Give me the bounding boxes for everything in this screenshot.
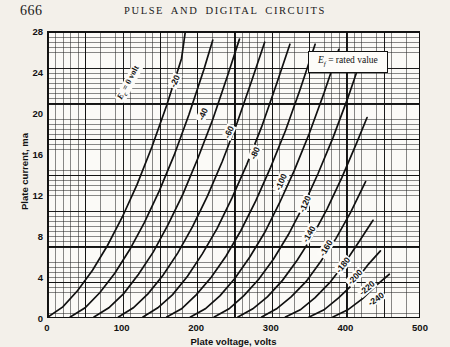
curve--80 bbox=[143, 44, 290, 317]
y-tick-28: 28 bbox=[32, 26, 43, 37]
x-tick-100: 100 bbox=[114, 322, 130, 333]
legend-box: Ef = rated value bbox=[308, 51, 388, 73]
y-tick-4: 4 bbox=[38, 272, 43, 283]
plot-area: Ec = 0 volt-20-40-60-80-100-120-140-160-… bbox=[47, 31, 420, 318]
curve--60 bbox=[118, 42, 264, 317]
y-tick-20: 20 bbox=[32, 108, 43, 119]
running-head: PULSE AND DIGITAL CIRCUITS bbox=[0, 5, 450, 16]
x-tick-500: 500 bbox=[412, 322, 428, 333]
y-tick-8: 8 bbox=[38, 231, 43, 242]
y-axis-title: Plate current, ma bbox=[19, 102, 30, 242]
x-axis-title: Plate voltage, volts bbox=[47, 336, 420, 347]
figure-plate-characteristics: Ec = 0 volt-20-40-60-80-100-120-140-160-… bbox=[0, 26, 450, 346]
curve--20 bbox=[70, 40, 212, 317]
y-tick-16: 16 bbox=[32, 149, 43, 160]
x-axis-ticks: 0100200300400500 bbox=[47, 322, 420, 336]
curve--40 bbox=[94, 39, 239, 317]
curve--180 bbox=[262, 182, 366, 317]
x-tick-400: 400 bbox=[337, 322, 353, 333]
x-tick-200: 200 bbox=[188, 322, 204, 333]
legend-text: = rated value bbox=[328, 55, 378, 65]
x-tick-0: 0 bbox=[44, 322, 49, 333]
y-tick-0: 0 bbox=[38, 313, 43, 324]
x-tick-300: 300 bbox=[263, 322, 279, 333]
legend-symbol: Ef bbox=[318, 55, 326, 65]
legend-subscript: f bbox=[324, 60, 326, 68]
y-tick-24: 24 bbox=[32, 67, 43, 78]
page-header: 666 PULSE AND DIGITAL CIRCUITS bbox=[0, 0, 450, 26]
y-tick-12: 12 bbox=[32, 190, 43, 201]
